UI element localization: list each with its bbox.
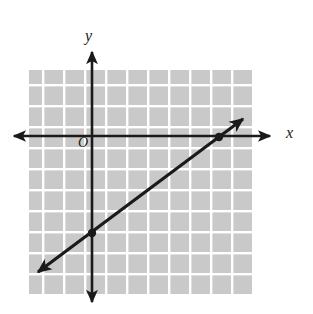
grid-region <box>29 70 253 295</box>
point-y-intercept <box>88 229 96 237</box>
figure-canvas: y x O <box>0 0 313 314</box>
coordinate-plane-graph <box>0 0 313 314</box>
point-x-intercept <box>215 133 223 141</box>
x-axis-label: x <box>286 125 293 141</box>
origin-label: O <box>78 136 88 150</box>
y-axis-label: y <box>85 28 92 44</box>
